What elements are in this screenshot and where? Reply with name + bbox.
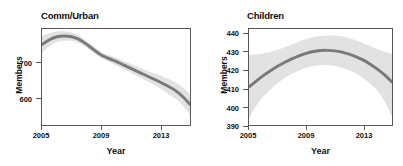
y-tick-label-right-420: 420 <box>217 66 239 75</box>
y-axis-label-left: Members <box>14 50 24 100</box>
y-tick-label-left-700: 700 <box>14 59 32 68</box>
y-tick-label-right-430: 430 <box>217 48 239 57</box>
x-tick-label-left-2005: 2005 <box>28 131 54 140</box>
x-tick-label-left-2009: 2009 <box>88 131 114 140</box>
y-tick-label-right-410: 410 <box>217 85 239 94</box>
plot-area-children <box>248 28 393 126</box>
x-axis-label-right: Year <box>248 146 393 156</box>
trend-line-comm-urban <box>42 36 190 104</box>
x-axis-label-left: Year <box>41 146 191 156</box>
panel-title-children: Children <box>247 10 284 21</box>
x-tick-mark-left-2005 <box>41 126 42 130</box>
y-tick-label-right-440: 440 <box>217 29 239 38</box>
plot-svg-children <box>249 29 392 125</box>
y-tick-label-left-600: 600 <box>14 95 32 104</box>
x-tick-label-right-2013: 2013 <box>351 131 377 140</box>
x-tick-mark-right-2005 <box>248 126 249 130</box>
x-tick-mark-left-2009 <box>101 126 102 130</box>
x-tick-label-left-2013: 2013 <box>148 131 174 140</box>
y-tick-label-right-390: 390 <box>217 122 239 131</box>
confidence-band-children <box>249 35 392 118</box>
x-tick-mark-left-2013 <box>161 126 162 130</box>
confidence-band-comm-urban <box>42 31 190 114</box>
y-tick-label-right-400: 400 <box>217 104 239 113</box>
x-tick-mark-right-2013 <box>364 126 365 130</box>
panel-title-comm-urban: Comm/Urban <box>41 10 99 21</box>
panel-children: Children Members 440 430 420 410 400 390… <box>201 0 403 166</box>
figure-two-panel-line-charts: Comm/Urban Members 700 600 2005 2009 201… <box>0 0 403 166</box>
panel-comm-urban: Comm/Urban Members 700 600 2005 2009 201… <box>0 0 201 166</box>
x-tick-label-right-2005: 2005 <box>235 131 261 140</box>
plot-area-comm-urban <box>41 28 191 126</box>
plot-svg-comm-urban <box>42 29 190 125</box>
x-tick-label-right-2009: 2009 <box>293 131 319 140</box>
x-tick-mark-right-2009 <box>306 126 307 130</box>
